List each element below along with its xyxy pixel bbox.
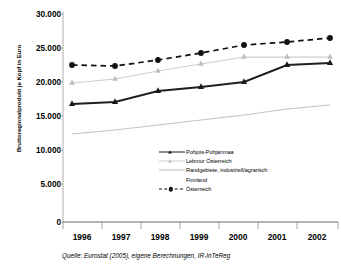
legend-label: Österreich — [185, 186, 211, 192]
legend-key-solid-black-triangle-icon — [159, 147, 185, 156]
x-tick-label: 1999 — [179, 232, 219, 242]
legend-key-thin-grey-line-icon — [159, 166, 185, 175]
x-tick-label: 2000 — [218, 232, 258, 242]
x-tick-label: 1997 — [101, 232, 141, 242]
legend-key-blank-icon — [159, 175, 185, 184]
legend-item-pohjois-pohjanmaa: Pohjois-Pohjanmaa — [159, 147, 289, 156]
legend-label: Pohjois-Pohjanmaa — [185, 149, 234, 155]
legend-label: Finnland — [185, 177, 207, 183]
x-axis-tick-labels: 1996 1997 1998 1999 2000 2001 2002 — [0, 0, 341, 268]
legend-key-light-grey-triangle-icon — [159, 157, 185, 166]
legend-item-randgebiete: Randgebiete, industriell/agrarisch — [159, 166, 289, 175]
x-tick-label: 1998 — [140, 232, 180, 242]
x-tick-label: 2001 — [257, 232, 297, 242]
legend-item-oesterreich: Österreich — [159, 185, 289, 194]
chart-figure: Bruttoregionalprodukt je Kopf in Euro 30… — [0, 0, 341, 268]
chart-legend: Pohjois-Pohjanmaa Lebmur Österreich Rand… — [159, 147, 289, 194]
x-tick-label: 1996 — [62, 232, 102, 242]
x-tick-label: 2002 — [297, 232, 337, 242]
legend-label: Randgebiete, industriell/agrarisch — [185, 167, 267, 173]
legend-item-lebmur-oesterreich: Lebmur Österreich — [159, 156, 289, 165]
legend-item-finnland: Finnland — [159, 175, 289, 184]
legend-label: Lebmur Österreich — [185, 158, 231, 164]
legend-key-dashed-black-circle-icon — [159, 185, 185, 194]
source-caption: Quelle: Eurostat (2005), eigene Berechnu… — [62, 252, 230, 259]
